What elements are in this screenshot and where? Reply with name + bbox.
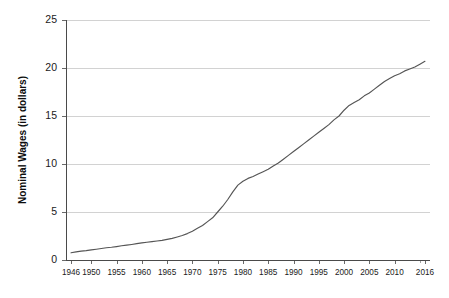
y-tick-label-25: 25 (45, 13, 57, 25)
x-tick-label-1980: 1980 (234, 268, 253, 277)
x-tick-label-1950: 1950 (82, 268, 101, 277)
chart-background (0, 0, 449, 298)
x-tick-label-2016: 2016 (416, 268, 435, 277)
wage-line-chart: 0510152025 19461950195519601965197019751… (0, 0, 449, 298)
y-tick-label-15: 15 (45, 109, 57, 121)
x-tick-label-2010: 2010 (386, 268, 405, 277)
x-tick-label-1990: 1990 (284, 268, 303, 277)
x-tick-label-1995: 1995 (310, 268, 329, 277)
y-tick-label-0: 0 (51, 253, 57, 265)
y-tick-label-5: 5 (51, 205, 57, 217)
chart-canvas: 0510152025 19461950195519601965197019751… (0, 0, 449, 298)
x-tick-label-2005: 2005 (360, 268, 379, 277)
x-tick-label-1975: 1975 (209, 268, 228, 277)
x-tick-label-1965: 1965 (158, 268, 177, 277)
x-tick-label-1960: 1960 (133, 268, 152, 277)
y-tick-label-10: 10 (45, 157, 57, 169)
x-tick-label-1946: 1946 (62, 268, 81, 277)
y-axis-title: Nominal Wages (in dollars) (17, 76, 28, 204)
x-tick-label-2000: 2000 (335, 268, 354, 277)
x-tick-label-1955: 1955 (107, 268, 126, 277)
y-tick-label-20: 20 (45, 61, 57, 73)
x-tick-label-1985: 1985 (259, 268, 278, 277)
x-tick-label-1970: 1970 (183, 268, 202, 277)
